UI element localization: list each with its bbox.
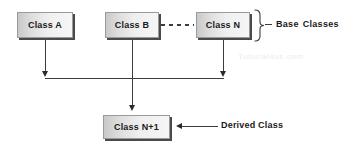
label-base-classes-word1: Base	[276, 19, 299, 29]
dashed-connector-class-b-to-class-n	[161, 24, 194, 26]
connector-class-a-to-bus	[45, 40, 46, 74]
class-box-label: Class N+1	[114, 123, 159, 132]
arrowhead-class-n-down-icon	[220, 71, 226, 77]
connector-class-b-to-derived	[132, 40, 133, 109]
class-box-class-n-plus-1[interactable]: Class N+1	[103, 115, 170, 139]
class-box-label: Class A	[28, 21, 62, 30]
class-box-class-b[interactable]: Class B	[105, 12, 159, 38]
watermark-text: Tutorial4us.com	[238, 52, 304, 61]
base-classes-brace-icon	[254, 9, 265, 42]
arrowhead-derived-down-icon	[129, 105, 135, 111]
label-base-classes-word2: Classes	[303, 19, 339, 29]
class-box-class-n[interactable]: Class N	[196, 12, 250, 38]
diagram-canvas: Tutorial4us.com Class A Class B Class N …	[0, 0, 357, 149]
label-derived-class: Derived Class	[221, 121, 283, 130]
class-box-class-a[interactable]: Class A	[17, 12, 73, 38]
arrowhead-class-a-down-icon	[42, 71, 48, 77]
connector-horizontal-bus	[45, 78, 224, 79]
label-base-classes: BaseClasses	[276, 20, 339, 29]
class-box-label: Class N	[206, 21, 240, 30]
brace-leader-line	[265, 24, 272, 25]
class-box-label: Class B	[115, 21, 149, 30]
connector-class-n-to-bus	[223, 40, 224, 74]
connector-derived-class-leader	[182, 126, 218, 127]
